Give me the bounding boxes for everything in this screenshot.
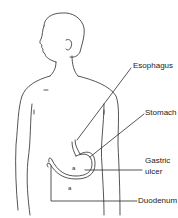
head-outline (44, 13, 84, 57)
esophagus-tube (72, 140, 80, 156)
label-stomach: Stomach (145, 108, 177, 117)
chest-marks (34, 90, 104, 114)
right-inner-arm (101, 104, 104, 215)
stomach-leader (90, 114, 144, 157)
label-gastric-ulcer-line1: Gastric (145, 156, 170, 165)
label-gastric-ulcer-line2: ulcer (145, 167, 162, 176)
duodenum-line (51, 166, 137, 201)
ear (66, 39, 72, 50)
esophagus-leader (77, 68, 131, 140)
ulcer-marker: a (72, 165, 76, 171)
left-shoulder-arm (16, 76, 50, 210)
right-shoulder-arm (78, 76, 120, 215)
neck (50, 56, 78, 76)
label-esophagus: Esophagus (133, 61, 173, 70)
left-inner-arm (27, 104, 32, 215)
label-duodenum: Duodenum (138, 196, 177, 205)
duodenum-marker: a (68, 185, 72, 191)
face-profile (40, 26, 56, 62)
